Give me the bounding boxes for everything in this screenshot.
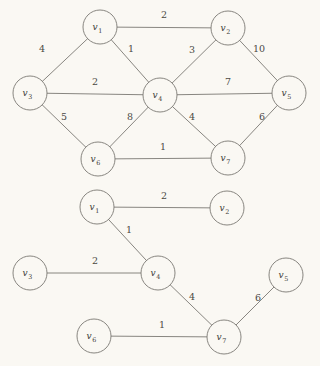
node-label-subscript-v3: 3 bbox=[28, 273, 32, 281]
node-label-subscript-v6: 6 bbox=[96, 159, 100, 167]
node-v2: v2 bbox=[210, 191, 244, 225]
edge-weight-v3-v4: 2 bbox=[92, 255, 98, 266]
node-label-subscript-v3: 3 bbox=[28, 93, 32, 101]
node-v1: v1 bbox=[80, 190, 114, 224]
node-v2: v2 bbox=[211, 11, 245, 45]
edge-weight-v2-v4: 3 bbox=[189, 44, 195, 55]
edge-v4-v5 bbox=[177, 93, 272, 94]
edge-weight-v4-v6: 8 bbox=[127, 111, 133, 122]
edge-weight-v4-v7: 4 bbox=[189, 111, 195, 122]
edge-weight-v1-v2: 2 bbox=[161, 190, 167, 201]
node-v6: v6 bbox=[77, 319, 111, 353]
node-v4: v4 bbox=[143, 78, 177, 112]
node-label-subscript-v7: 7 bbox=[222, 337, 226, 345]
edge-weight-v5-v7: 6 bbox=[255, 292, 261, 303]
node-v6: v6 bbox=[81, 142, 115, 176]
node-label-subscript-v5: 5 bbox=[287, 93, 291, 101]
node-label-subscript-v7: 7 bbox=[226, 158, 230, 166]
weighted-graph: 2413102758461v1v2v3v4v5v6v7 bbox=[13, 9, 306, 176]
edge-weight-v1-v2: 2 bbox=[161, 9, 167, 20]
node-label-subscript-v5: 5 bbox=[284, 275, 288, 283]
node-label-subscript-v2: 2 bbox=[225, 208, 229, 216]
minimum-spanning-tree: 212461v1v2v3v4v5v6v7 bbox=[13, 190, 303, 354]
node-label-subscript-v6: 6 bbox=[92, 336, 96, 344]
node-v5: v5 bbox=[272, 76, 306, 110]
edge-weight-v5-v7: 6 bbox=[259, 111, 265, 122]
edge-weight-v4-v5: 7 bbox=[225, 76, 231, 87]
node-label-subscript-v2: 2 bbox=[226, 28, 230, 36]
node-v3: v3 bbox=[13, 256, 47, 290]
edge-weight-v1-v4: 1 bbox=[126, 224, 132, 235]
graph-canvas: 2413102758461v1v2v3v4v5v6v7 212461v1v2v3… bbox=[0, 0, 320, 366]
node-v7: v7 bbox=[207, 320, 241, 354]
node-v5: v5 bbox=[269, 258, 303, 292]
node-label-subscript-v1: 1 bbox=[95, 207, 99, 215]
edge-weight-v1-v3: 4 bbox=[39, 43, 45, 54]
node-v4: v4 bbox=[141, 256, 175, 290]
node-label-subscript-v4: 4 bbox=[156, 273, 160, 281]
edge-weight-v3-v6: 5 bbox=[61, 111, 67, 122]
edge-weight-v6-v7: 1 bbox=[160, 141, 166, 152]
edge-weight-v3-v4: 2 bbox=[92, 76, 98, 87]
edge-weight-v1-v4: 1 bbox=[128, 43, 134, 54]
edge-v1-v2 bbox=[114, 207, 210, 208]
edge-v1-v3 bbox=[42, 39, 87, 82]
edge-weight-v2-v5: 10 bbox=[253, 43, 265, 54]
edge-v1-v2 bbox=[117, 27, 211, 28]
node-v1: v1 bbox=[83, 10, 117, 44]
edge-v3-v4 bbox=[47, 93, 143, 94]
edge-weight-v6-v7: 1 bbox=[159, 319, 165, 330]
node-label-subscript-v1: 1 bbox=[98, 27, 102, 35]
node-v7: v7 bbox=[211, 141, 245, 175]
graph-figure: 2413102758461v1v2v3v4v5v6v7 212461v1v2v3… bbox=[0, 0, 320, 366]
node-v3: v3 bbox=[13, 76, 47, 110]
node-label-subscript-v4: 4 bbox=[158, 95, 162, 103]
edge-v6-v7 bbox=[111, 336, 207, 337]
edge-v6-v7 bbox=[115, 158, 211, 159]
edge-weight-v4-v7: 4 bbox=[189, 291, 195, 302]
